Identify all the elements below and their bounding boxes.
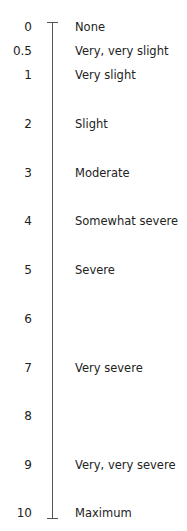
scale-value: 10 [0,506,32,520]
scale-value: 0 [0,20,32,34]
scale-value: 3 [0,166,32,180]
scale-value: 2 [0,117,32,131]
scale-axis-line [52,22,53,518]
scale-label: Severe [75,263,115,277]
scale-value: 7 [0,361,32,375]
scale-label: Somewhat severe [75,214,178,228]
scale-label: Very severe [75,361,143,375]
scale-label: None [75,20,105,34]
scale-value: 9 [0,458,32,472]
scale-bottom-tick [47,518,58,519]
scale-top-tick [47,22,58,23]
scale-value: 8 [0,409,32,423]
scale-label: Very, very severe [75,458,175,472]
scale-value: 1 [0,68,32,82]
scale-label: Slight [75,117,108,131]
scale-value: 6 [0,312,32,326]
scale-value: 0.5 [0,44,32,58]
scale-value: 5 [0,263,32,277]
scale-label: Maximum [75,506,132,520]
scale-value: 4 [0,214,32,228]
scale-label: Moderate [75,166,130,180]
scale-label: Very, very slight [75,44,168,58]
scale-label: Very slight [75,68,136,82]
